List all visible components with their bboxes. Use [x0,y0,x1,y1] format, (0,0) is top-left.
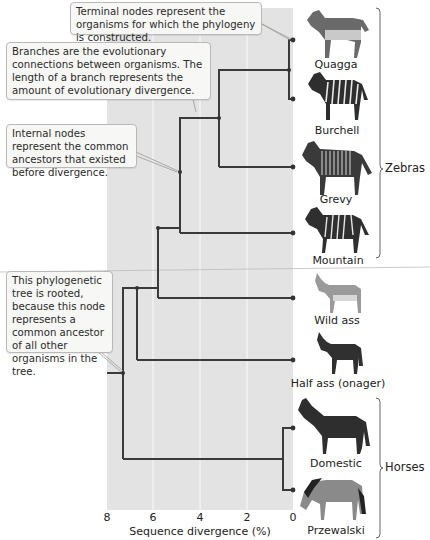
callout-terminal-nodes: Terminal nodes represent the organisms f… [70,2,262,35]
mountain-zebra-illustration [305,207,369,253]
taxon-label-wild-ass: Wild ass [282,314,392,327]
internal-node [135,286,139,290]
x-tick-6: 6 [150,511,157,524]
onager-illustration [317,332,363,374]
internal-node [156,226,160,230]
terminal-node-half-ass [291,358,296,363]
internal-node [217,116,221,120]
terminal-node-quagga [291,38,296,43]
group-label-zebras: Zebras [385,161,425,175]
callout-branches: Branches are the evolutionary connection… [6,42,211,100]
callout-rooted-tree: This phylogenetic tree is rooted, becaus… [6,271,113,353]
quagga-illustration [307,10,369,58]
taxon-label-mountain: Mountain [283,254,393,267]
terminal-node-grevy [291,165,296,170]
taxon-label-half-ass: Half ass (onager) [283,377,393,390]
domestic-horse-illustration [298,398,370,454]
przewalski-horse-illustration [300,478,366,520]
taxon-label-domestic: Domestic [281,457,391,470]
terminal-node-burchell [291,97,296,102]
x-tick-0: 0 [290,511,297,524]
terminal-node-domestic [291,426,296,431]
root-node [121,371,125,375]
x-axis-label: Sequence divergence (%) [107,525,293,538]
callout-rooted-text: This phylogenetic tree is rooted, becaus… [12,275,105,377]
internal-node [178,170,182,174]
callout-branches-text: Branches are the evolutionary connection… [12,46,202,96]
taxon-label-przewalski: Przewalski [281,524,391,537]
wild-ass-illustration [315,273,361,313]
taxon-label-burchell: Burchell [282,124,392,137]
callout-internal-nodes: Internal nodes represent the common ance… [6,124,137,168]
grevy-illustration [302,141,372,195]
taxon-label-grevy: Grevy [281,193,391,206]
x-tick-2: 2 [244,511,251,524]
terminal-node-wild-ass [291,296,296,301]
burchell-illustration [308,72,368,120]
x-tick-4: 4 [197,511,204,524]
x-tick-8: 8 [104,511,111,524]
taxon-label-quagga: Quagga [281,58,391,71]
terminal-node-mountain [291,231,296,236]
group-label-horses: Horses [385,460,424,474]
terminal-node-przewalski [291,488,296,493]
